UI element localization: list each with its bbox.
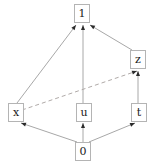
edge-x-one xyxy=(17,25,76,103)
node-t-label: t xyxy=(137,107,141,118)
node-u-label: u xyxy=(80,107,87,118)
edge-z-one xyxy=(90,25,132,50)
arrowhead-zero-t xyxy=(130,123,135,127)
lattice-diagram: 1 z x u t 0 xyxy=(0,0,154,164)
edge-layer xyxy=(0,0,154,164)
edge-zero-t xyxy=(89,123,135,142)
node-zero-label: 0 xyxy=(80,146,87,157)
node-zero[interactable]: 0 xyxy=(75,142,91,161)
arrowhead-u-one xyxy=(81,25,85,30)
arrowhead-x-z xyxy=(132,71,137,75)
node-one-label: 1 xyxy=(79,8,86,19)
node-z-label: z xyxy=(135,54,141,65)
arrowhead-t-z xyxy=(136,71,140,76)
node-u[interactable]: u xyxy=(76,103,92,122)
node-one[interactable]: 1 xyxy=(74,4,90,23)
node-x[interactable]: x xyxy=(8,103,24,122)
node-x-label: x xyxy=(13,107,19,118)
arrowhead-zero-u xyxy=(81,123,85,128)
arrowhead-z-one xyxy=(90,25,95,29)
arrowhead-zero-x xyxy=(21,123,26,127)
edge-zero-x xyxy=(21,123,77,142)
node-z[interactable]: z xyxy=(130,50,146,69)
solid-edge-group xyxy=(17,25,138,142)
node-t[interactable]: t xyxy=(131,103,147,122)
